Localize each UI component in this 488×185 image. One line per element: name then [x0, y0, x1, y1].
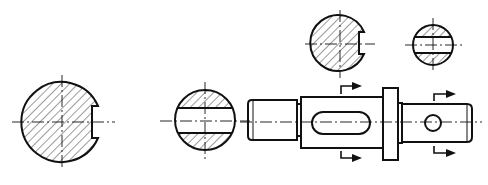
drawing-canvas	[0, 0, 488, 185]
section-flats-left	[160, 82, 250, 162]
technical-drawing	[0, 0, 488, 185]
section-top-keyway	[305, 10, 375, 78]
shaft-elevation	[240, 88, 482, 160]
cut-mark-2	[434, 90, 456, 157]
section-large-keyway	[12, 75, 115, 170]
section-top-flats	[405, 18, 462, 72]
